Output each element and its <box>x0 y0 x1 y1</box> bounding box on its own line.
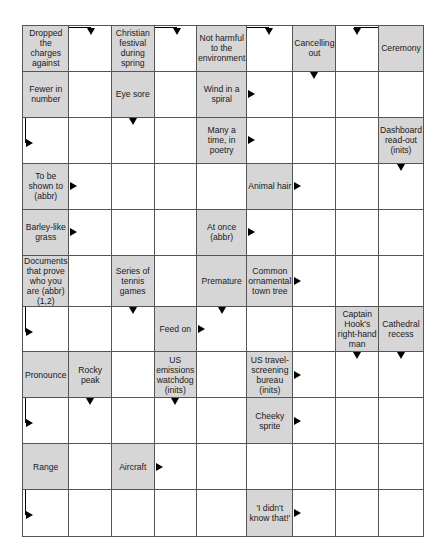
answer-cell[interactable] <box>155 164 198 210</box>
answer-cell[interactable] <box>247 72 293 118</box>
arrow-down-icon <box>87 28 95 35</box>
answer-cell[interactable] <box>379 256 423 307</box>
answer-cell[interactable] <box>336 26 379 72</box>
answer-cell[interactable] <box>112 210 155 256</box>
answer-cell[interactable] <box>69 444 112 490</box>
clue-text: Pronounce <box>25 370 67 380</box>
answer-cell[interactable] <box>247 444 293 490</box>
clue-cell: To be shown to (abbr) <box>23 164 69 210</box>
answer-cell[interactable] <box>112 398 155 444</box>
answer-cell[interactable] <box>293 72 336 118</box>
clue-text: Barley-like grass <box>24 222 67 242</box>
answer-cell[interactable] <box>69 164 112 210</box>
answer-cell[interactable] <box>197 490 247 536</box>
clue-cell: Barley-like grass <box>23 210 69 256</box>
answer-cell[interactable] <box>247 307 293 353</box>
answer-cell[interactable] <box>379 72 423 118</box>
answer-cell[interactable] <box>336 398 379 444</box>
answer-cell[interactable] <box>293 256 336 307</box>
clue-cell: Fewer in number <box>23 72 69 118</box>
answer-cell[interactable] <box>69 307 112 353</box>
clue-cell: Captain Hook's right-hand man <box>336 307 379 353</box>
answer-cell[interactable] <box>23 118 69 164</box>
answer-cell[interactable] <box>112 118 155 164</box>
answer-cell[interactable] <box>247 118 293 164</box>
answer-cell[interactable] <box>336 490 379 536</box>
answer-cell[interactable] <box>197 307 247 353</box>
answer-cell[interactable] <box>293 307 336 353</box>
clue-cell: Range <box>23 444 69 490</box>
answer-cell[interactable] <box>69 26 112 72</box>
answer-cell[interactable] <box>155 398 198 444</box>
clue-text: At once (abbr) <box>198 222 245 242</box>
answer-cell[interactable] <box>293 210 336 256</box>
clue-cell: Ceremony <box>379 26 423 72</box>
clue-text: Captain Hook's right-hand man <box>337 309 377 349</box>
answer-cell[interactable] <box>247 210 293 256</box>
answer-cell[interactable] <box>112 490 155 536</box>
answer-cell[interactable] <box>69 490 112 536</box>
answer-cell[interactable] <box>155 210 198 256</box>
answer-cell[interactable] <box>336 352 379 398</box>
answer-cell[interactable] <box>155 26 198 72</box>
answer-cell[interactable] <box>293 164 336 210</box>
answer-cell[interactable] <box>293 118 336 164</box>
answer-cell[interactable] <box>155 118 198 164</box>
clue-text: Wind in a spiral <box>198 84 245 104</box>
clue-text: Series of tennis games <box>113 266 153 296</box>
answer-cell[interactable] <box>293 490 336 536</box>
answer-cell[interactable] <box>69 72 112 118</box>
answer-cell[interactable] <box>293 444 336 490</box>
answer-cell[interactable] <box>155 256 198 307</box>
answer-cell[interactable] <box>379 164 423 210</box>
answer-cell[interactable] <box>155 444 198 490</box>
answer-cell[interactable] <box>336 256 379 307</box>
arrow-right-icon <box>26 139 33 147</box>
answer-cell[interactable] <box>379 490 423 536</box>
answer-cell[interactable] <box>379 398 423 444</box>
answer-cell[interactable] <box>23 307 69 353</box>
answer-cell[interactable] <box>69 210 112 256</box>
clue-text: Eye sore <box>116 89 150 99</box>
answer-cell[interactable] <box>247 26 293 72</box>
answer-cell[interactable] <box>69 256 112 307</box>
clue-cell: Many a time, in poetry <box>197 118 247 164</box>
answer-cell[interactable] <box>197 444 247 490</box>
clue-text: To be shown to (abbr) <box>24 171 67 201</box>
clue-cell: Series of tennis games <box>112 256 155 307</box>
clue-cell: Pronounce <box>23 352 69 398</box>
answer-cell[interactable] <box>23 490 69 536</box>
clue-text: Fewer in number <box>24 84 67 104</box>
answer-cell[interactable] <box>336 210 379 256</box>
clue-cell: Cathedral recess <box>379 307 423 353</box>
answer-cell[interactable] <box>112 307 155 353</box>
answer-cell[interactable] <box>336 164 379 210</box>
answer-cell[interactable] <box>379 352 423 398</box>
answer-cell[interactable] <box>336 118 379 164</box>
answer-cell[interactable] <box>293 398 336 444</box>
clue-cell: Animal hair <box>247 164 293 210</box>
clue-cell: Not harmful to the environment <box>197 26 247 72</box>
answer-cell[interactable] <box>293 352 336 398</box>
answer-cell[interactable] <box>336 444 379 490</box>
clue-text: Rocky peak <box>70 365 110 385</box>
clue-cell: US emissions watchdog (inits) <box>155 352 198 398</box>
clue-text: Cathedral recess <box>380 319 422 339</box>
answer-cell[interactable] <box>379 210 423 256</box>
answer-cell[interactable] <box>112 164 155 210</box>
answer-cell[interactable] <box>197 352 247 398</box>
answer-cell[interactable] <box>197 164 247 210</box>
answer-cell[interactable] <box>69 118 112 164</box>
clue-text: US travel-screening bureau (inits) <box>248 355 291 395</box>
arrow-right-icon <box>26 419 33 427</box>
answer-cell[interactable] <box>23 398 69 444</box>
answer-cell[interactable] <box>155 72 198 118</box>
answer-cell[interactable] <box>336 72 379 118</box>
answer-cell[interactable] <box>69 398 112 444</box>
clue-text: Many a time, in poetry <box>198 125 245 155</box>
answer-cell[interactable] <box>379 444 423 490</box>
clue-cell: 'I didn't know that!' <box>247 490 293 536</box>
answer-cell[interactable] <box>112 352 155 398</box>
answer-cell[interactable] <box>155 490 198 536</box>
answer-cell[interactable] <box>197 398 247 444</box>
